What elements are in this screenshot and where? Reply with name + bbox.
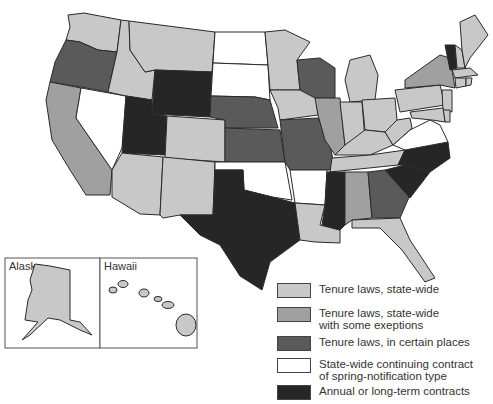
state-CT[interactable] [455,78,466,88]
state-KS[interactable] [225,128,285,162]
state-MI[interactable] [345,55,378,102]
state-RI[interactable] [466,78,472,86]
state-CO[interactable] [165,116,225,162]
state-AL[interactable] [345,172,372,225]
legend-item-annual-contracts: Annual or long-term contracts [277,385,470,400]
legend-item-continuing-contract: State-wide continuing contract of spring… [277,358,473,382]
legend-swatch [277,307,311,322]
legend-label: Tenure laws, state-wide [319,283,439,295]
legend-label: Tenure laws, in certain places [319,336,470,348]
legend-label: State-wide continuing contract of spring… [319,358,473,382]
state-PA[interactable] [395,85,445,112]
legend-item-tenure-certain-places: Tenure laws, in certain places [277,336,470,351]
state-WI[interactable] [297,58,335,98]
state-SD[interactable] [211,63,270,100]
state-AZ[interactable] [112,153,163,215]
legend-label: Tenure laws, state-wide with some exepti… [319,307,439,331]
legend-item-tenure-exceptions: Tenure laws, state-wide with some exepti… [277,307,439,331]
state-ND[interactable] [213,32,268,65]
state-WY[interactable] [152,70,212,117]
legend-swatch [277,283,311,298]
legend-item-tenure-statewide: Tenure laws, state-wide [277,283,439,298]
hawaii-label: Hawaii [104,260,137,272]
state-MT[interactable] [129,21,215,72]
state-FL[interactable] [352,218,435,282]
legend-swatch [277,385,311,400]
legend-swatch [277,336,311,351]
state-NM[interactable] [160,157,215,218]
state-AR[interactable] [290,170,327,205]
state-ME[interactable] [460,15,488,68]
state-MA[interactable] [452,68,478,78]
legend-swatch [277,358,311,373]
legend-label: Annual or long-term contracts [319,385,470,397]
